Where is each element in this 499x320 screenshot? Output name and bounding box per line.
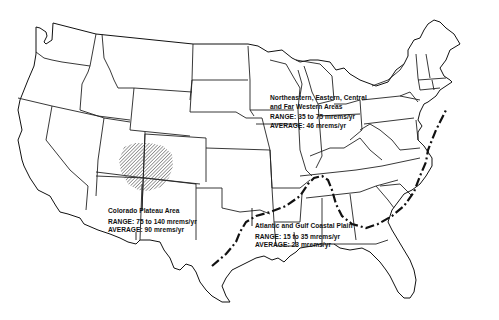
us-map [0, 0, 499, 320]
northeastern-range: RANGE: 35 to 75 mrems/yr [270, 113, 367, 122]
coastal-plain-title: Atlantic and Gulf Coastal Plain [255, 222, 353, 231]
colorado-plateau-average: AVERAGE: 90 mrems/yr [108, 226, 197, 235]
coastal-plain-label: Atlantic and Gulf Coastal Plain RANGE: 1… [255, 222, 353, 250]
colorado-plateau-label: Colorado Plateau Area RANGE: 75 to 140 m… [108, 207, 197, 235]
colorado-plateau-range: RANGE: 75 to 140 mrems/yr [108, 218, 197, 227]
northeastern-title-line1: Northeastern, Eastern, Central [270, 94, 367, 103]
coastal-plain-range: RANGE: 15 to 35 mrems/yr [255, 233, 353, 242]
northeastern-average: AVERAGE: 46 mrems/yr [270, 122, 367, 131]
colorado-plateau-hatched-area [119, 143, 173, 191]
coastal-plain-average: AVERAGE: 23 mrems/yr [255, 241, 353, 250]
us-outline [18, 20, 460, 302]
colorado-plateau-title: Colorado Plateau Area [108, 207, 197, 216]
state-borders [18, 34, 446, 246]
northeastern-title-line2: and Far Western Areas [270, 103, 367, 112]
northeastern-region-label: Northeastern, Eastern, Central and Far W… [270, 94, 367, 130]
